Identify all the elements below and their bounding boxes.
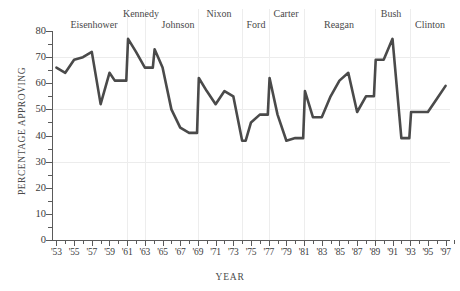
approval-line-series [52, 31, 450, 240]
x-tick-major [393, 240, 394, 246]
y-tick-minor [48, 122, 52, 123]
y-axis-tick-labels: 01020304050607080 [0, 0, 46, 291]
x-tick-major [163, 240, 164, 246]
x-tick-minor [331, 240, 332, 244]
y-tick [46, 214, 52, 215]
y-tick-minor [48, 44, 52, 45]
president-label-ford: Ford [247, 19, 266, 30]
x-tick-minor [242, 240, 243, 244]
y-tick-label: 70 [2, 52, 46, 62]
president-label-clinton: Clinton [415, 19, 445, 30]
x-tick-minor [313, 240, 314, 244]
x-tick-minor [401, 240, 402, 244]
president-label-carter: Carter [274, 8, 299, 19]
y-tick-label: 80 [2, 26, 46, 36]
y-tick-minor [48, 201, 52, 202]
presidential-approval-chart: PERCENTAGE APPROVING 01020304050607080 '… [0, 0, 460, 291]
x-axis-title: YEAR [0, 272, 460, 282]
president-label-nixon: Nixon [207, 8, 232, 19]
y-tick-label: 20 [2, 183, 46, 193]
x-tick-minor [348, 240, 349, 244]
y-tick [46, 83, 52, 84]
approval-line [56, 39, 445, 141]
y-tick-label: 30 [2, 157, 46, 167]
x-tick-major [109, 240, 110, 246]
x-tick-minor [118, 240, 119, 244]
y-tick [46, 188, 52, 189]
x-tick-minor [171, 240, 172, 244]
x-tick-major [357, 240, 358, 246]
x-tick-major [145, 240, 146, 246]
y-tick-label: 60 [2, 78, 46, 88]
x-tick-label: '97 [434, 247, 458, 257]
x-tick-major [375, 240, 376, 246]
x-tick-minor [224, 240, 225, 244]
president-label-bush: Bush [381, 8, 402, 19]
x-tick-minor [454, 240, 455, 244]
x-tick-major [92, 240, 93, 246]
y-tick-label: 0 [2, 235, 46, 245]
x-tick-major [286, 240, 287, 246]
y-tick-label: 10 [2, 209, 46, 219]
x-tick-minor [419, 240, 420, 244]
x-tick-minor [260, 240, 261, 244]
x-tick-major [269, 240, 270, 246]
x-tick-minor [101, 240, 102, 244]
y-tick [46, 136, 52, 137]
x-tick-minor [189, 240, 190, 244]
x-tick-major [251, 240, 252, 246]
y-tick [46, 109, 52, 110]
x-tick-major [198, 240, 199, 246]
x-tick-minor [83, 240, 84, 244]
plot-area [52, 31, 450, 240]
y-tick-minor [48, 96, 52, 97]
x-tick-major [74, 240, 75, 246]
x-tick-minor [136, 240, 137, 244]
president-label-reagan: Reagan [324, 19, 354, 30]
x-tick-minor [154, 240, 155, 244]
y-tick-minor [48, 149, 52, 150]
president-label-kennedy: Kennedy [123, 8, 159, 19]
x-tick-minor [207, 240, 208, 244]
x-tick-major [56, 240, 57, 246]
x-tick-minor [278, 240, 279, 244]
x-tick-minor [384, 240, 385, 244]
x-tick-major [216, 240, 217, 246]
y-tick-label: 40 [2, 131, 46, 141]
y-tick [46, 31, 52, 32]
x-tick-major [127, 240, 128, 246]
x-tick-minor [437, 240, 438, 244]
x-tick-major [339, 240, 340, 246]
x-tick-major [180, 240, 181, 246]
y-tick [46, 57, 52, 58]
y-tick-minor [48, 70, 52, 71]
y-tick-label: 50 [2, 104, 46, 114]
x-tick-minor [295, 240, 296, 244]
x-tick-major [446, 240, 447, 246]
x-tick-major [428, 240, 429, 246]
x-tick-major [304, 240, 305, 246]
x-tick-minor [65, 240, 66, 244]
y-tick-minor [48, 175, 52, 176]
y-axis-line [52, 31, 53, 240]
x-tick-major [322, 240, 323, 246]
x-tick-minor [366, 240, 367, 244]
x-tick-major [233, 240, 234, 246]
x-tick-major [410, 240, 411, 246]
president-label-eisenhower: Eisenhower [70, 19, 117, 30]
president-label-johnson: Johnson [162, 19, 195, 30]
y-tick-minor [48, 227, 52, 228]
y-tick [46, 162, 52, 163]
y-tick [46, 240, 52, 241]
